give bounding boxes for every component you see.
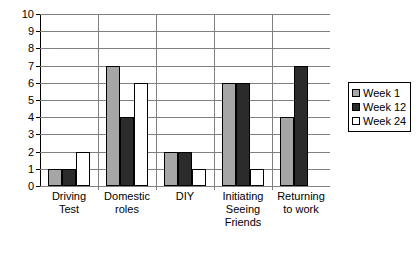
bar	[222, 83, 236, 186]
legend-label: Week 12	[363, 102, 406, 113]
x-tick-label: DIY	[156, 190, 214, 203]
x-tick-label-line: Driving	[40, 190, 98, 203]
y-tick-mark	[36, 186, 40, 187]
y-tick-mark	[36, 100, 40, 101]
y-tick-label: 4	[10, 112, 34, 123]
category-divider	[98, 14, 99, 190]
y-tick-label: 9	[10, 26, 34, 37]
x-tick-label-line: Returning	[272, 190, 330, 203]
bar	[48, 169, 62, 186]
x-axis-labels: DrivingTestDomesticrolesDIYInitiatingSee…	[40, 190, 330, 252]
x-tick-label-line: Friends	[214, 216, 272, 229]
bar	[62, 169, 76, 186]
x-tick-label: DrivingTest	[40, 190, 98, 216]
y-tick-mark	[36, 169, 40, 170]
bar	[294, 66, 308, 186]
x-tick-label-line: roles	[98, 203, 156, 216]
y-tick-label: 0	[10, 181, 34, 192]
category-divider	[214, 14, 215, 190]
legend-swatch	[352, 117, 360, 125]
y-tick-label: 6	[10, 78, 34, 89]
bar-group	[272, 14, 330, 186]
bar-group	[40, 14, 98, 186]
bar	[236, 83, 250, 186]
y-tick-mark	[36, 134, 40, 135]
legend-swatch	[352, 103, 360, 111]
y-tick-mark	[36, 117, 40, 118]
legend-label: Week 24	[363, 116, 406, 127]
x-tick-label: Domesticroles	[98, 190, 156, 216]
y-tick-mark	[36, 66, 40, 67]
bar	[192, 169, 206, 186]
y-tick-label: 8	[10, 43, 34, 54]
bar	[280, 117, 294, 186]
legend-label: Week 1	[363, 88, 400, 99]
bar-chart: 109876543210 DrivingTestDomesticrolesDIY…	[0, 0, 418, 256]
gridline	[40, 186, 330, 187]
x-tick-label-line: Test	[40, 203, 98, 216]
legend-item: Week 12	[352, 100, 406, 114]
bar	[76, 152, 90, 186]
y-tick-mark	[36, 48, 40, 49]
y-tick-label: 1	[10, 164, 34, 175]
legend: Week 1Week 12Week 24	[348, 82, 411, 132]
legend-item: Week 24	[352, 114, 406, 128]
x-tick-label-line: Seeing	[214, 203, 272, 216]
y-tick-label: 5	[10, 95, 34, 106]
x-tick-label: InitiatingSeeingFriends	[214, 190, 272, 229]
y-tick-mark	[36, 152, 40, 153]
y-tick-label: 2	[10, 147, 34, 158]
bar	[164, 152, 178, 186]
bar-group	[156, 14, 214, 186]
category-divider	[272, 14, 273, 190]
plot-area	[40, 14, 330, 186]
bar-group	[98, 14, 156, 186]
bar	[106, 66, 120, 186]
x-tick-label: Returningto work	[272, 190, 330, 216]
x-tick-label-line: DIY	[156, 190, 214, 203]
bar	[250, 169, 264, 186]
legend-swatch	[352, 89, 360, 97]
y-tick-mark	[36, 31, 40, 32]
category-divider	[156, 14, 157, 190]
bar	[134, 83, 148, 186]
x-tick-label-line: Initiating	[214, 190, 272, 203]
y-tick-mark	[36, 14, 40, 15]
bar	[178, 152, 192, 186]
y-tick-label: 3	[10, 129, 34, 140]
y-axis: 109876543210	[6, 14, 34, 186]
bar-group	[214, 14, 272, 186]
x-tick-label-line: to work	[272, 203, 330, 216]
x-tick-label-line: Domestic	[98, 190, 156, 203]
bar	[120, 117, 134, 186]
y-tick-label: 7	[10, 61, 34, 72]
y-tick-label: 10	[10, 9, 34, 20]
y-tick-mark	[36, 83, 40, 84]
legend-item: Week 1	[352, 86, 406, 100]
